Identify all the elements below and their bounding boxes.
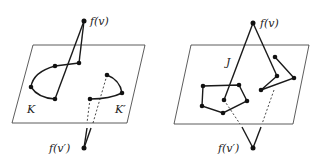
label-fv-prime: f(v′): [217, 142, 239, 155]
vertex-fv: [82, 19, 87, 24]
plane-right: [174, 45, 309, 124]
label-K: K: [26, 103, 36, 116]
vertex: [221, 111, 226, 116]
knot-triangle: [261, 57, 294, 90]
vertex: [237, 83, 242, 88]
vertex-fv: [251, 21, 256, 26]
label-J: J: [224, 56, 231, 69]
vertex: [77, 61, 82, 66]
knot-K: [31, 63, 79, 99]
label-fv: f(v): [89, 15, 109, 28]
vertex: [88, 97, 93, 102]
right-panel: f(v) J f(v′): [174, 17, 309, 155]
vertex: [53, 97, 58, 102]
cone-edge: [253, 127, 261, 148]
label-fv: f(v): [259, 17, 279, 30]
vertex-fv-prime: [82, 146, 87, 151]
cone-edge-hidden: [87, 99, 90, 123]
label-fv-prime: f(v′): [48, 142, 70, 155]
knot-K-prime: [90, 75, 122, 99]
vertex: [245, 99, 250, 104]
vertex: [120, 91, 125, 96]
label-K-prime: K′: [114, 103, 126, 116]
vertex: [222, 98, 227, 103]
vertex: [201, 84, 206, 89]
diagram-canvas: f(v) K K′ f(v′) f(v) J f(v′): [0, 0, 319, 166]
cone-edge: [242, 127, 253, 148]
vertex: [273, 55, 278, 60]
vertex: [53, 64, 58, 69]
cone-edge-hidden: [262, 90, 274, 124]
vertex: [105, 73, 110, 78]
cone-edge: [253, 23, 277, 76]
left-panel: f(v) K K′ f(v′): [12, 15, 145, 155]
vertex-fv-prime: [251, 146, 256, 151]
vertex: [292, 76, 297, 81]
vertex: [29, 85, 34, 90]
vertex: [259, 88, 264, 93]
vertex: [200, 104, 205, 109]
vertex: [275, 74, 280, 79]
